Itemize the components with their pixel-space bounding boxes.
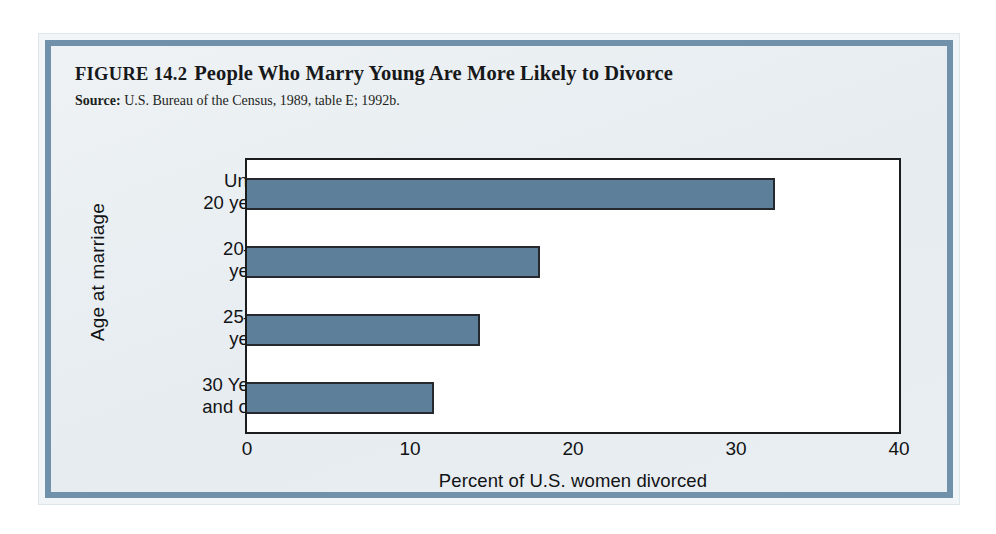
bar-3	[247, 314, 480, 346]
figure-card: FIGURE 14.2People Who Marry Young Are Mo…	[38, 33, 960, 505]
x-axis-tick-labels: 010203040	[245, 438, 901, 464]
bar-1	[247, 178, 775, 210]
bars-layer	[247, 160, 899, 432]
x-tick-label-40: 40	[888, 438, 909, 460]
chart-region: Age at marriage Under20 years20–24years2…	[51, 46, 947, 492]
x-tick-label-20: 20	[562, 438, 583, 460]
plot-area	[245, 158, 901, 434]
x-tick-label-0: 0	[242, 438, 253, 460]
bar-2	[247, 246, 540, 278]
figure-inner-panel: FIGURE 14.2People Who Marry Young Are Mo…	[51, 46, 947, 492]
bar-4	[247, 382, 434, 414]
figure-frame-band: FIGURE 14.2People Who Marry Young Are Mo…	[45, 40, 953, 498]
x-tick-label-30: 30	[725, 438, 746, 460]
x-tick-label-10: 10	[399, 438, 420, 460]
x-axis-title: Percent of U.S. women divorced	[245, 470, 901, 492]
y-axis-title: Age at marriage	[87, 192, 109, 352]
